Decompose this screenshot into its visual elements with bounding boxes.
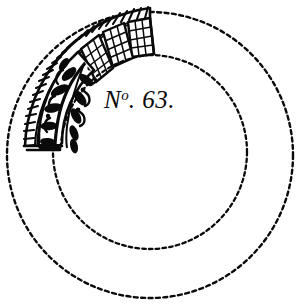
label-prefix-period: .: [129, 86, 136, 113]
figure-number-label: No. 63.: [104, 78, 204, 112]
fragment-terminal-fill: [39, 144, 62, 150]
label-prefix: N: [104, 86, 121, 113]
label-terminal-period: .: [168, 86, 175, 113]
label-superscript: o: [121, 87, 129, 103]
label-number: 63: [142, 86, 168, 113]
figure-drawing: [0, 0, 299, 304]
plate-figure: No. 63.: [0, 0, 299, 304]
